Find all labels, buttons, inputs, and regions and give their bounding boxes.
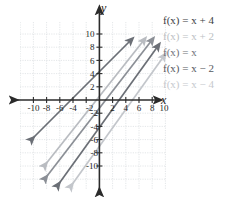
y-tick-label: 8 bbox=[90, 42, 95, 52]
x-tick-label: 8 bbox=[150, 103, 155, 113]
x-tick-label: 6 bbox=[137, 103, 142, 113]
y-tick-label: -10 bbox=[86, 161, 98, 171]
legend-label: f(x) = x − 4 bbox=[163, 78, 214, 90]
legend-label: f(x) = x bbox=[163, 46, 197, 58]
y-tick-label: 4 bbox=[90, 69, 95, 79]
legend-item-x: f(x) = x bbox=[163, 44, 237, 60]
y-tick-label: -8 bbox=[91, 148, 99, 158]
y-tick-label: -2 bbox=[91, 108, 99, 118]
graph-figure: -10 -8 -6 -4 -2 2 4 6 8 10 10 8 6 4 2 -2… bbox=[0, 0, 237, 200]
y-tick-label: -4 bbox=[91, 122, 99, 132]
legend-item-x-plus-2: f(x) = x + 2 bbox=[163, 28, 237, 44]
legend-item-x-plus-4: f(x) = x + 4 bbox=[163, 12, 237, 28]
legend-item-x-minus-2: f(x) = x − 2 bbox=[163, 60, 237, 76]
y-tick-label: 10 bbox=[86, 29, 96, 39]
x-tick-label: -10 bbox=[27, 103, 39, 113]
line-x-minus-4 bbox=[71, 56, 164, 186]
legend-label: f(x) = x − 2 bbox=[163, 62, 214, 74]
y-axis-label: y bbox=[100, 1, 107, 15]
x-tick-label: 2 bbox=[110, 103, 115, 113]
x-tick-label: -6 bbox=[56, 103, 64, 113]
line-x-minus-2 bbox=[58, 46, 158, 185]
x-tick-labels: -10 -8 -6 -4 -2 2 4 6 8 10 bbox=[27, 103, 169, 113]
y-tick-label: 2 bbox=[90, 82, 95, 92]
legend-label: f(x) = x + 2 bbox=[163, 30, 214, 42]
legend: f(x) = x + 4 f(x) = x + 2 f(x) = x f(x) … bbox=[163, 12, 237, 96]
legend-item-x-minus-4: f(x) = x − 4 bbox=[163, 76, 237, 92]
x-tick-label: -8 bbox=[43, 103, 51, 113]
legend-label: f(x) = x + 4 bbox=[163, 14, 214, 26]
x-tick-label: -4 bbox=[69, 103, 77, 113]
y-tick-label: -6 bbox=[91, 135, 99, 145]
x-tick-label: 4 bbox=[124, 103, 129, 113]
y-tick-label: 6 bbox=[90, 56, 95, 66]
